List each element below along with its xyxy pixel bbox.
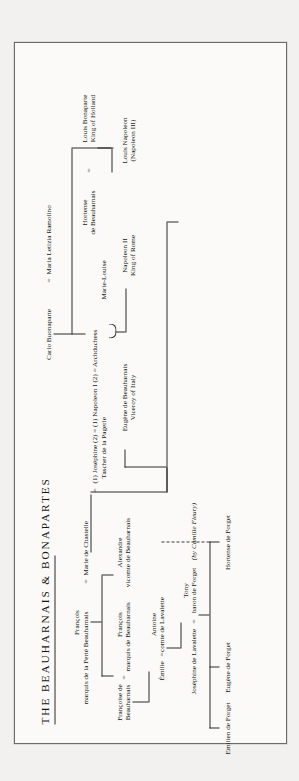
annotation-by-camille-fleury: (by Camille Fleury)	[189, 502, 197, 559]
node-marie-louise-subtitle: Marie-Louise	[99, 260, 107, 299]
node-eugene-de-beauharnais-line2: Viceroy of Italy	[128, 374, 136, 420]
chart-title: THE BEAUHARNAIS & BONAPARTES	[38, 477, 50, 724]
line-alexandre-drop	[101, 574, 113, 575]
line-francois-descent-stem	[90, 621, 101, 622]
node-eugene-de-forget: Eugène de Forget	[223, 642, 231, 693]
line-forget-children-bar	[209, 615, 210, 728]
page-border-frame: THE BEAUHARNAIS & BONAPARTES François ma…	[14, 42, 287, 744]
node-tony-line1: Tony	[181, 583, 189, 598]
line-francois-children-bar	[101, 575, 102, 676]
line-eugene-beauharnais-connector	[124, 449, 125, 467]
marriage-symbol-carlo: =	[44, 278, 52, 282]
line-josephine-children-stem	[90, 491, 166, 492]
marriage-symbol-josephine-lavalette: =	[189, 619, 197, 623]
node-napoleon-ii-line1: Napoleon II	[120, 238, 128, 273]
line-francoise-drop	[101, 675, 113, 676]
line-hortense-forget-bar	[209, 541, 210, 615]
node-francoise-spouse-line1: François	[115, 612, 123, 637]
node-alexandre-line1: Alexandre	[115, 537, 123, 567]
line-eugene-forget-drop	[209, 666, 219, 667]
line-emilien-drop	[209, 727, 219, 728]
title-underline	[54, 555, 55, 724]
node-carlo-buonaparte: Carlo Buonaparte	[44, 308, 52, 359]
node-francoise-line1: Françoise de	[115, 684, 123, 721]
genealogy-chart-canvas: THE BEAUHARNAIS & BONAPARTES François ma…	[16, 44, 285, 742]
node-emilie-spouse-line2: comte de Lavalette	[157, 597, 165, 652]
line-carlo-descent-stem	[53, 333, 71, 334]
node-napoleon-ii-line2: King of Rome	[128, 234, 136, 275]
node-josephine-de-lavalette: Joséphine de Lavalette	[189, 628, 197, 694]
node-tony-line2: baron de Forget	[189, 567, 197, 613]
line-bonaparte-children-bar	[71, 148, 72, 334]
node-francoise-line2: Beauharnais	[123, 684, 131, 720]
node-marie-de-chastelle: Marie de Chastelle	[81, 521, 89, 575]
node-emilie-spouse-line1: Antoine	[149, 612, 157, 635]
line-josephine-children-riser	[124, 466, 166, 467]
napoleon-marriage-line: (1) Joséphine (2) = (1) Napoleon I (2) =…	[90, 329, 98, 483]
node-louis-bonaparte-line1: Louis Bonaparte	[80, 94, 88, 142]
marriage-symbol-francoise: =	[119, 675, 127, 679]
node-francoise-spouse-line2: marquis de Beauharnais	[123, 602, 131, 671]
node-eugene-de-beauharnais-line1: Eugène de Beauharnais	[120, 363, 128, 431]
line-napoleon-i-drop	[71, 333, 85, 334]
node-maria-letizia-ramolino: Maria Letizia Ramolino	[44, 205, 52, 274]
line-napoleon-ii-stem	[115, 331, 125, 332]
node-louis-napoleon-line2: (Napoleon III)	[128, 119, 136, 161]
line-hortense-beauharnais-connector	[166, 222, 167, 492]
node-francois-marquis-line2: marquis de la Ferté Beauharnais	[81, 611, 89, 704]
node-alexandre-line2: vicomte de Beauharnais	[123, 517, 131, 586]
bracket-napoleon-ii	[108, 323, 116, 338]
node-josephine-subtitle: Tascher de la Pagerie	[99, 417, 107, 478]
line-napoleon-ii-connector	[125, 288, 126, 332]
line-hortense-beauharnais-drop	[166, 221, 178, 222]
line-hortense-forget-drop	[209, 541, 219, 542]
marriage-symbol-francois: =	[81, 579, 89, 583]
marriage-symbol-hortense: =	[84, 168, 92, 172]
node-louis-bonaparte-line2: King of Holland	[88, 94, 96, 141]
line-alexandre-to-josephine	[90, 494, 91, 552]
line-josephine-lavalette-connector	[180, 622, 181, 648]
node-francois-marquis-line1: François	[72, 610, 80, 635]
line-francoise-to-emilie	[132, 701, 148, 702]
line-louis-napoleon-stem	[97, 147, 111, 148]
line-hortense-forget-dashed	[161, 541, 209, 542]
marriage-symbol-emilie: =	[157, 652, 165, 656]
node-emilie: Émilie	[157, 661, 165, 680]
line-louis-napoleon-connector	[111, 148, 112, 172]
node-hortense-beauharnais-line2: de Beauharnais	[88, 190, 96, 234]
node-hortense-beauharnais-line1: Hortense	[80, 199, 88, 225]
node-hortense-de-forget: Hortense de Forget	[223, 514, 231, 569]
line-emilie-to-josephine-lavalette	[166, 647, 180, 648]
line-emilie-connector	[148, 671, 149, 702]
node-emilien-de-forget: Emilien de Forget	[223, 702, 231, 754]
node-louis-napoleon-line1: Louis Napoleon	[120, 117, 128, 163]
line-forget-descent-stem	[198, 614, 209, 615]
